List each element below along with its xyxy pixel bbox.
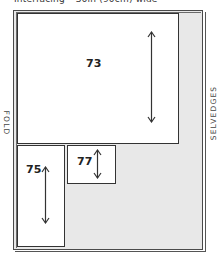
layout-title: Interfacing – 36in (90cm) wide <box>14 0 158 4</box>
piece-label-75: 75 <box>26 163 41 176</box>
grainline-arrow-icon <box>41 166 50 224</box>
piece-label-73: 73 <box>86 57 101 70</box>
grainline-arrow-icon <box>147 31 156 123</box>
selvedges-label: SELVEDGES <box>209 86 218 141</box>
fold-label: FOLD <box>2 111 11 136</box>
piece-label-77: 77 <box>77 155 92 168</box>
grainline-arrow-icon <box>93 149 102 179</box>
